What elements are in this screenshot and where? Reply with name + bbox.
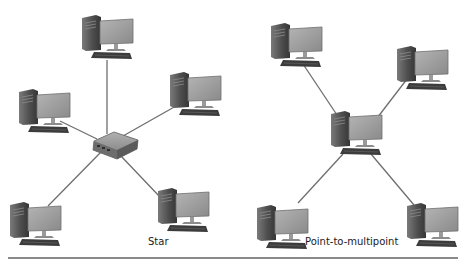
computer-icon bbox=[271, 23, 322, 67]
computer-icon bbox=[407, 203, 458, 247]
network-topology-diagrams bbox=[0, 0, 465, 267]
point-to-multipoint-diagram bbox=[257, 23, 458, 249]
star-diagram bbox=[10, 15, 221, 246]
bottom-divider bbox=[8, 257, 458, 259]
point-to-multipoint-label: Point-to-multipoint bbox=[305, 236, 398, 247]
star-label: Star bbox=[148, 236, 169, 247]
link-right bbox=[123, 106, 176, 136]
computer-icon bbox=[170, 72, 221, 116]
computer-icon bbox=[10, 202, 61, 246]
computer-icon bbox=[82, 15, 133, 59]
central-computer-icon bbox=[331, 111, 382, 155]
link-bottom-left bbox=[48, 151, 102, 206]
computer-icon bbox=[397, 46, 448, 90]
computer-icon bbox=[257, 205, 308, 249]
link-bottom-left bbox=[298, 154, 343, 203]
link-bottom-right bbox=[120, 155, 160, 197]
link-bottom-right bbox=[371, 154, 414, 205]
computer-icon bbox=[158, 188, 209, 232]
hub-icon bbox=[93, 132, 138, 159]
link-top-left bbox=[303, 64, 341, 121]
computer-icon bbox=[19, 89, 70, 133]
